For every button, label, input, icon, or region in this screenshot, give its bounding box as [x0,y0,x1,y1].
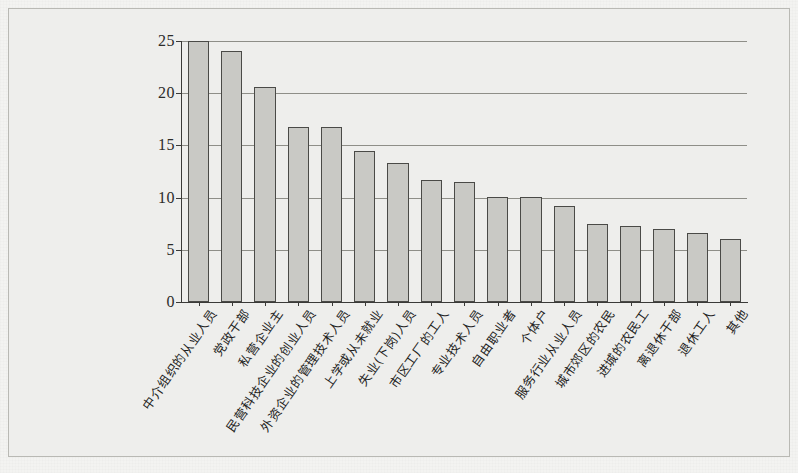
bar-slot [581,41,614,302]
bar-slot [448,41,481,302]
bar[interactable] [620,226,641,302]
bar[interactable] [554,206,575,302]
bar-slot [548,41,581,302]
bar[interactable] [354,151,375,302]
bar[interactable] [720,239,741,302]
bar[interactable] [587,224,608,302]
bar[interactable] [321,127,342,302]
x-tick-mark [365,302,366,306]
bar[interactable] [454,182,475,302]
bar-slot [714,41,747,302]
bar[interactable] [421,180,442,302]
x-tick-label: 其他 [721,305,752,338]
x-tick-label: 中介组织的从业人员 [136,305,220,413]
y-tick-label: 25 [139,32,175,50]
bar-slot [248,41,281,302]
x-tick-mark [697,302,698,306]
bar-slot [415,41,448,302]
x-tick-mark [664,302,665,306]
y-tick-label: 0 [139,293,175,311]
bar[interactable] [520,197,541,302]
x-tick-mark [631,302,632,306]
y-tick-label: 20 [139,84,175,102]
y-tick-label: 15 [139,136,175,154]
bar-slot [182,41,215,302]
bar-slot [614,41,647,302]
bar-slot [647,41,680,302]
bar[interactable] [387,163,408,302]
x-tick-mark [464,302,465,306]
x-tick-mark [531,302,532,306]
bar-slot [282,41,315,302]
x-tick-mark [730,302,731,306]
x-tick-mark [265,302,266,306]
y-tick-label: 10 [139,189,175,207]
bar-slot [381,41,414,302]
y-tick-label: 5 [139,241,175,259]
x-tick-mark [232,302,233,306]
y-axis-tick-labels: 0510152025 [135,41,175,302]
x-tick-mark [298,302,299,306]
x-tick-mark [199,302,200,306]
x-tick-mark [332,302,333,306]
bar-slot [348,41,381,302]
x-tick-mark [431,302,432,306]
x-tick-mark [498,302,499,306]
x-tick-mark [398,302,399,306]
bar[interactable] [487,197,508,302]
bar[interactable] [288,127,309,302]
bar[interactable] [653,229,674,302]
bar[interactable] [221,51,242,302]
bar-slot [481,41,514,302]
plot-area [182,41,747,302]
bar-slot [315,41,348,302]
bar-slot [514,41,547,302]
bar[interactable] [687,233,708,302]
chart-figure-panel: 0510152025 中介组织的从业人员党政干部私营企业主民营科技企业的创业人员… [8,8,790,457]
bar-slot [681,41,714,302]
bar-series [182,41,747,302]
bar[interactable] [188,41,209,302]
x-tick-mark [564,302,565,306]
bar-slot [215,41,248,302]
bar[interactable] [254,87,275,302]
x-tick-mark [597,302,598,306]
